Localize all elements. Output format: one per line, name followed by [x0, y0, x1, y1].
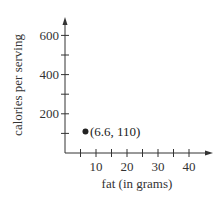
- x-axis-arrow-icon: [205, 151, 213, 156]
- y-axis-label: calories per serving: [10, 34, 25, 136]
- x-tick-label: 20: [121, 159, 134, 174]
- y-axis-arrow-icon: [63, 17, 68, 25]
- y-tick-label: 600: [40, 28, 60, 43]
- x-tick-label: 10: [90, 159, 103, 174]
- x-axis-label: fat (in grams): [102, 176, 173, 191]
- ticks: 20040060010203040: [40, 28, 196, 174]
- point-annotation: (6.6, 110): [90, 124, 140, 139]
- y-tick-label: 400: [40, 67, 60, 82]
- y-tick-label: 200: [40, 106, 60, 121]
- scatter-chart: 20040060010203040 (6.6, 110) fat (in gra…: [0, 0, 219, 201]
- data-points: (6.6, 110): [82, 124, 140, 139]
- x-tick-label: 40: [183, 159, 196, 174]
- data-point: [82, 128, 88, 134]
- x-tick-label: 30: [152, 159, 165, 174]
